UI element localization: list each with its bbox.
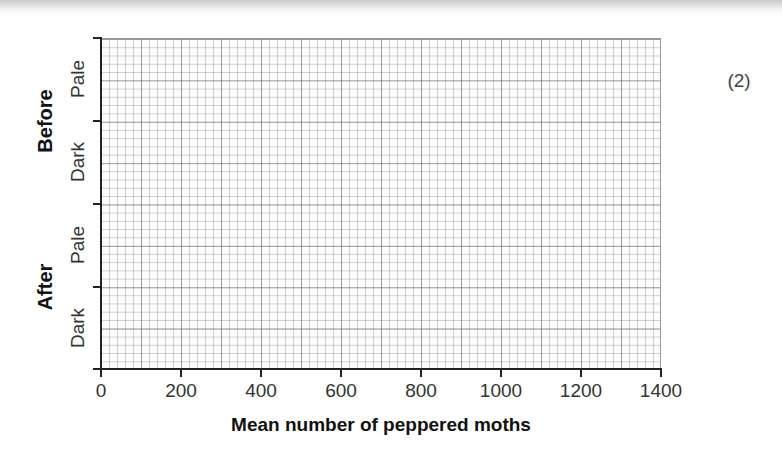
y-tick: [93, 286, 101, 288]
y-label-after-dark: Dark: [67, 308, 89, 348]
x-tick: [340, 369, 342, 377]
x-tick: [260, 369, 262, 377]
y-group-before: Before: [34, 89, 57, 152]
x-tick-label: 400: [245, 380, 277, 402]
page-top-shadow: [0, 0, 782, 14]
y-tick: [93, 37, 101, 39]
x-tick: [500, 369, 502, 377]
y-group-after: After: [34, 264, 57, 311]
y-label-before-dark: Dark: [67, 142, 89, 182]
y-label-before-pale: Pale: [67, 60, 89, 98]
marks-indicator: (2): [727, 70, 750, 92]
x-tick-label: 0: [96, 380, 107, 402]
x-tick-label: 1000: [480, 380, 522, 402]
x-tick: [580, 369, 582, 377]
graph-paper-grid[interactable]: [101, 38, 661, 369]
x-axis-title: Mean number of peppered moths: [231, 414, 531, 436]
x-tick: [660, 369, 662, 377]
x-tick-label: 800: [405, 380, 437, 402]
x-tick: [180, 369, 182, 377]
x-tick: [100, 369, 102, 377]
y-tick: [93, 120, 101, 122]
y-label-after-pale: Pale: [67, 226, 89, 264]
x-tick-label: 600: [325, 380, 357, 402]
x-axis-line: [100, 368, 662, 370]
x-tick-label: 1400: [640, 380, 682, 402]
x-tick-label: 1200: [560, 380, 602, 402]
y-tick: [93, 203, 101, 205]
x-tick-label: 200: [165, 380, 197, 402]
x-tick: [420, 369, 422, 377]
